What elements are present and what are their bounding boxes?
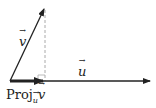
- vector-v-arrow: [10, 9, 44, 81]
- label-projection: Projuv: [6, 87, 45, 105]
- label-u: u: [78, 64, 86, 79]
- label-v: v: [19, 34, 26, 49]
